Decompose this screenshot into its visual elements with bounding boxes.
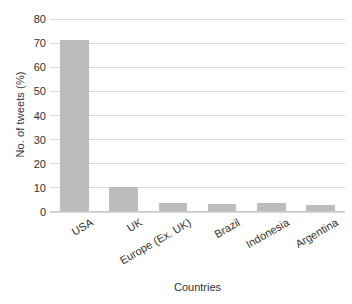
y-tick-label: 10 xyxy=(22,182,46,193)
bar-indonesia xyxy=(257,203,286,211)
y-tick-label: 20 xyxy=(22,158,46,169)
y-axis-tick-labels: 01020304050607080 xyxy=(22,0,46,304)
y-tick-label: 60 xyxy=(22,62,46,73)
x-tick-label: Argentina xyxy=(294,216,341,250)
bar-europe-ex-uk xyxy=(159,203,188,211)
bar-chart-figure: No. of tweets (%) 01020304050607080 USAU… xyxy=(0,0,352,304)
y-tick-label: 80 xyxy=(22,14,46,25)
gridline xyxy=(50,163,345,164)
gridline xyxy=(50,115,345,116)
bar-usa xyxy=(60,40,89,211)
gridline xyxy=(50,91,345,92)
y-tick-label: 50 xyxy=(22,86,46,97)
bar-argentina xyxy=(306,205,335,211)
bar-uk xyxy=(109,187,138,211)
y-tick-label: 0 xyxy=(22,207,46,218)
x-tick-label: USA xyxy=(69,216,95,238)
gridline xyxy=(50,139,345,140)
x-tick-label: Indonesia xyxy=(244,216,291,250)
gridline xyxy=(50,67,345,68)
x-axis-title: Countries xyxy=(50,281,345,293)
gridline xyxy=(50,19,345,20)
y-tick-label: 30 xyxy=(22,134,46,145)
x-axis-tick-labels: USAUKEurope (Ex. UK)BrazilIndonesiaArgen… xyxy=(50,212,345,274)
bar-brazil xyxy=(208,204,237,211)
x-tick-label: Brazil xyxy=(212,216,242,240)
gridline xyxy=(50,187,345,188)
plot-area xyxy=(50,19,345,212)
gridline xyxy=(50,43,345,44)
y-tick-label: 70 xyxy=(22,38,46,49)
x-tick-label: UK xyxy=(125,216,144,234)
y-tick-label: 40 xyxy=(22,110,46,121)
